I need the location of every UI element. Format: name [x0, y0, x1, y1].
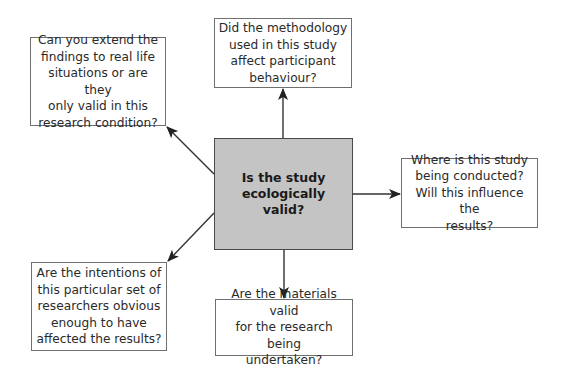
node-top: Did the methodology used in this study a… — [214, 18, 352, 88]
node-line: used in this study — [219, 37, 348, 54]
node-line: affected the results? — [36, 331, 161, 348]
node-top-left: Can you extend the findings to real life… — [30, 37, 166, 126]
node-line: this particular set of — [36, 282, 161, 299]
node-line: results? — [405, 218, 534, 235]
arrow-to-top-left — [167, 127, 214, 174]
node-line: only valid in this — [34, 98, 162, 115]
node-line: Where is this study — [405, 152, 534, 169]
node-line: affect participant — [219, 53, 348, 70]
node-line: Will this influence the — [405, 185, 534, 218]
node-line: researchers obvious — [36, 298, 161, 315]
node-line: Did the methodology — [219, 20, 348, 37]
node-line: Are the intentions of — [36, 265, 161, 282]
node-line: undertaken? — [219, 352, 349, 369]
node-line: Are the materials valid — [219, 286, 349, 319]
arrow-to-bottom-left — [168, 213, 214, 261]
center-line: valid? — [242, 202, 326, 218]
center-line: ecologically — [242, 186, 326, 202]
node-line: findings to real life — [34, 49, 162, 66]
node-bottom-left: Are the intentions of this particular se… — [31, 262, 167, 351]
node-line: for the research being — [219, 319, 349, 352]
node-bottom: Are the materials valid for the research… — [215, 299, 353, 356]
node-line: research condition? — [34, 115, 162, 132]
node-line: behaviour? — [219, 70, 348, 87]
node-line: enough to have — [36, 315, 161, 332]
center-node: Is the study ecologically valid? — [214, 138, 353, 250]
node-line: situations or are they — [34, 65, 162, 98]
center-line: Is the study — [242, 170, 326, 186]
node-line: Can you extend the — [34, 32, 162, 49]
node-line: being conducted? — [405, 168, 534, 185]
node-right: Where is this study being conducted? Wil… — [401, 158, 538, 228]
